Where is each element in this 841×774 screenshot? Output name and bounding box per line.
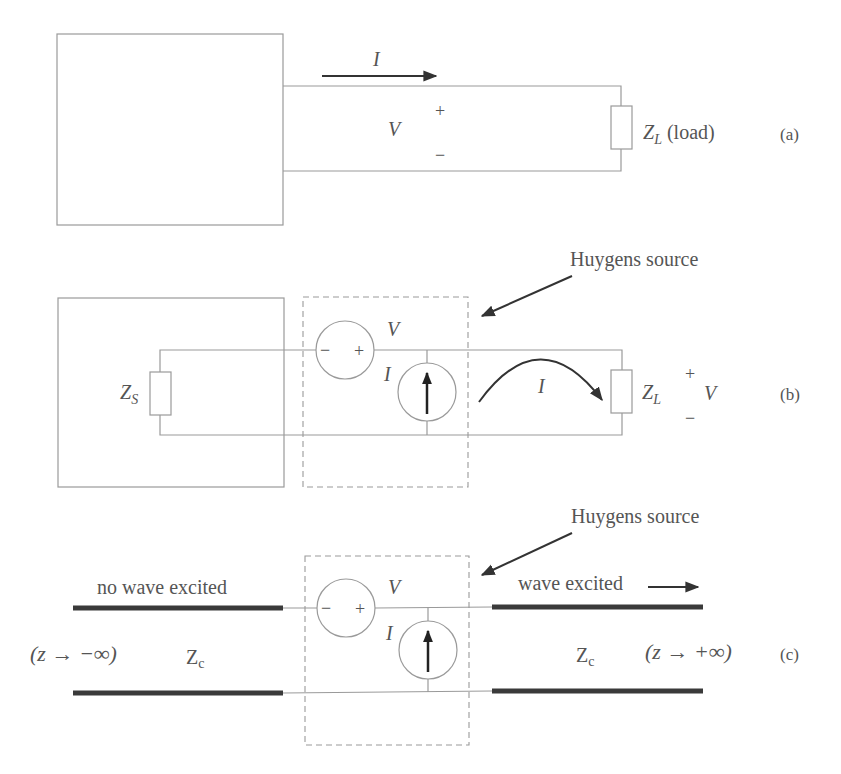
loop-current-label: I [537,375,546,397]
load-label: ZL [642,381,661,407]
callout-arrow-icon [482,276,572,316]
source-impedance-label: ZS [120,381,138,407]
right-caption: wave excited [518,572,623,594]
source-impedance-icon [150,372,171,415]
voltage-minus: − [435,145,445,165]
right-impedance: Zc [576,644,594,669]
left-limit: (z → −∞) [30,641,117,666]
load-resistor-icon [611,106,632,149]
left-caption: no wave excited [97,576,227,598]
vsource-minus: − [321,598,331,618]
vsource-plus: + [355,599,365,619]
vsource-label: V [387,318,402,340]
vsource-label: V [388,576,403,598]
vsource-minus: − [320,340,330,360]
top-wire-left [160,350,316,372]
isource-label: I [383,363,392,385]
panel-c: − + V I no wave excited wave excited (z … [30,505,799,745]
bottom-wire [160,413,622,435]
panel-b: ZS − + V I I ZL + − V Huygens source (b) [58,248,800,487]
load-voltage-label: V [704,382,719,404]
panel-tag-c: (c) [780,645,799,664]
load-minus: − [685,408,695,428]
left-impedance: Zc [186,646,204,671]
panel-tag-b: (b) [780,385,800,404]
load-resistor-icon [611,370,632,413]
vsource-plus: + [354,341,364,361]
huygens-callout: Huygens source [570,248,698,271]
isource-label: I [385,622,394,644]
load-plus: + [685,364,695,384]
source-network-box [57,34,283,225]
huygens-callout: Huygens source [571,505,699,528]
voltage-plus: + [435,101,445,121]
top-wire [283,86,621,106]
current-label: I [372,48,381,70]
callout-arrow-icon [482,533,572,575]
panel-tag-a: (a) [780,125,799,144]
huygens-source-diagram: I V + − ZL (load) (a) ZS − + V I [0,0,841,774]
panel-a: I V + − ZL (load) (a) [57,34,799,225]
voltage-label: V [388,118,403,140]
bottom-wire [283,149,621,171]
load-label: ZL (load) [643,121,715,147]
right-limit: (z → +∞) [645,639,732,664]
